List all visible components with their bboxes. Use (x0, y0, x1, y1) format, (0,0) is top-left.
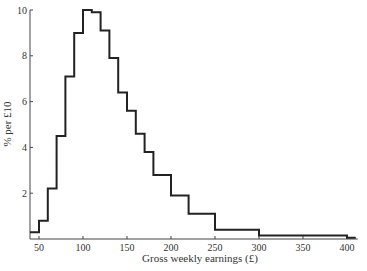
y-tick-label: 2 (22, 188, 27, 199)
y-tick-label: 8 (22, 50, 27, 61)
y-tick-label: 6 (22, 96, 27, 107)
x-tick-label: 150 (120, 242, 135, 253)
histogram-chart: 24681050100150200250300350400 Gross week… (0, 0, 367, 271)
y-tick-label: 4 (22, 142, 27, 153)
x-axis-label: Gross weekly earnings (£) (142, 252, 258, 265)
y-axis-label: % per £10 (1, 101, 13, 147)
x-tick-label: 400 (340, 242, 355, 253)
axes: 24681050100150200250300350400 (17, 5, 358, 254)
y-tick-label: 10 (17, 5, 27, 16)
x-tick-label: 350 (296, 242, 311, 253)
x-tick-label: 50 (34, 242, 44, 253)
histogram-outline (30, 10, 356, 238)
x-tick-label: 100 (76, 242, 91, 253)
